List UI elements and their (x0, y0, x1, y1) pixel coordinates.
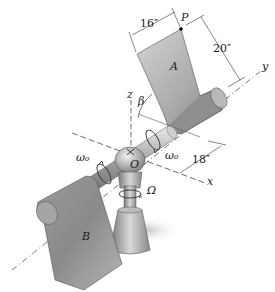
plate-a-label: A (169, 60, 178, 73)
point-p-marker (179, 27, 183, 31)
plate-b-label: B (81, 230, 90, 243)
axis-x-label: x (207, 175, 214, 188)
axis-z-label: z (126, 88, 133, 101)
dimension-label-20in: 20″ (213, 42, 231, 55)
omega0-left-label: ω₀ (76, 151, 90, 164)
point-p-label: P (180, 11, 189, 24)
beta-label: β (137, 95, 144, 108)
omega-precession-label: Ω (146, 184, 156, 197)
omega0-right-label: ω₀ (165, 149, 179, 162)
origin-label: O (130, 158, 139, 171)
rotating-plates-diagram: 16″ P 20″ y A z β ω₀ ω₀ 18″ O x Ω B (0, 0, 275, 292)
axis-y-label: y (261, 60, 269, 73)
dimension-label-16in: 16″ (140, 17, 158, 30)
dimension-label-18in: 18″ (192, 153, 210, 166)
plate-b (32, 176, 122, 290)
